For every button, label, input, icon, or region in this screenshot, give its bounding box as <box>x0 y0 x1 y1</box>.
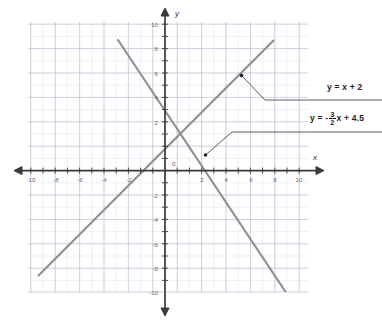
fraction-three-halves: 32 <box>329 111 335 127</box>
y-tick-label: -2 <box>152 192 158 199</box>
y-tick-label: -8 <box>152 265 158 272</box>
y-tick-label: -6 <box>152 241 158 248</box>
x-tick-label: -4 <box>101 176 107 183</box>
coordinate-plane: -10 -8 -6 -4 -2 2 4 6 8 10 10 8 6 4 2 -2… <box>0 0 382 321</box>
y-tick-label: 6 <box>155 70 159 77</box>
x-tick-label: 10 <box>296 176 303 183</box>
x-axis-arrow-left <box>14 167 22 175</box>
callout-dot-line2 <box>204 153 208 157</box>
x-tick-label: -6 <box>77 176 83 183</box>
callout-dot-line1 <box>240 74 244 78</box>
callout-anchor-dots <box>204 74 244 157</box>
equation-line1-text: y = x + 2 <box>327 82 362 92</box>
x-tick-label: 6 <box>249 176 253 183</box>
equation-label-line2: y = -32x + 4.5 <box>310 111 364 127</box>
x-tick-label: 2 <box>200 176 204 183</box>
x-tick-label: -2 <box>126 176 132 183</box>
y-tick-label: 2 <box>155 119 159 126</box>
x-axis-label: x <box>312 153 318 162</box>
equation-label-line1: y = x + 2 <box>327 82 362 92</box>
y-tick-label: -4 <box>152 216 158 223</box>
x-tick-label: 8 <box>273 176 277 183</box>
graph-figure: -10 -8 -6 -4 -2 2 4 6 8 10 10 8 6 4 2 -2… <box>0 0 382 321</box>
equation-line2-prefix: y = - <box>310 113 328 123</box>
grid-minor <box>28 22 308 292</box>
y-tick-label: 4 <box>155 94 159 101</box>
fraction-numerator: 3 <box>329 111 335 119</box>
x-tick-label: 4 <box>224 176 228 183</box>
x-tick-label: -10 <box>27 176 37 183</box>
x-axis-arrow-right <box>316 167 324 175</box>
y-axis-arrow-up <box>161 8 169 16</box>
callout-leader-line2 <box>206 132 382 155</box>
axes <box>14 8 324 316</box>
y-tick-label: -10 <box>149 289 159 296</box>
origin-label: 0 <box>172 160 176 167</box>
y-tick-label: 8 <box>155 45 159 52</box>
x-tick-label: -8 <box>53 176 59 183</box>
fraction-denominator: 2 <box>329 118 335 127</box>
equation-line2-suffix: x + 4.5 <box>337 113 365 123</box>
grid-major <box>28 22 308 292</box>
y-axis-label: y <box>174 9 180 18</box>
y-axis-arrow-down <box>161 308 169 316</box>
y-tick-label: 10 <box>151 21 158 28</box>
